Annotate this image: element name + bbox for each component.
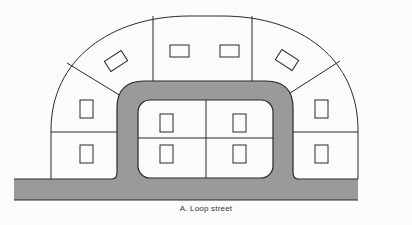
figure-caption: A. Loop street xyxy=(0,204,412,213)
main-road xyxy=(14,179,358,200)
loop-street-diagram xyxy=(0,0,412,225)
